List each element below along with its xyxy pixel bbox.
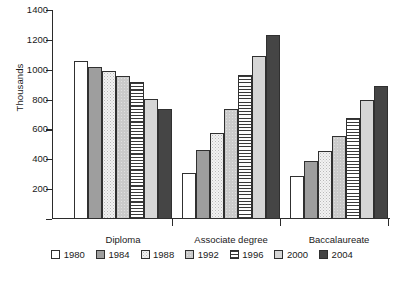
plot-area: 200400600800100012001400 DiplomaAssociat… [52,10,390,219]
bar[interactable] [158,109,172,219]
chart-legend: 1980198419881992199620002004 [0,250,404,260]
legend-label: 1984 [108,250,129,260]
bar[interactable] [290,176,304,219]
bar[interactable] [346,118,360,220]
bar[interactable] [196,150,210,219]
y-axis-tick-label: 600 [32,125,48,135]
bar[interactable] [74,61,88,219]
legend-item-2000[interactable]: 2000 [274,250,308,260]
legend-item-1980[interactable]: 1980 [51,250,85,260]
legend-item-1988[interactable]: 1988 [141,250,175,260]
bar[interactable] [360,100,374,219]
y-axis-tick-label: 800 [32,95,48,105]
y-axis-tick-label: 1200 [27,35,48,45]
legend-label: 1992 [198,250,219,260]
legend-label: 2004 [332,250,353,260]
bar[interactable] [318,151,332,219]
x-axis-category-label: Associate degree [194,234,267,245]
bar-chart: Thousands 200400600800100012001400 Diplo… [0,0,404,281]
bar[interactable] [266,35,280,219]
x-axis-category-label: Diploma [106,234,141,245]
bar[interactable] [116,76,130,219]
legend-swatch-icon [96,250,105,259]
bar-group: Baccalaureate [290,10,388,219]
legend-label: 1988 [153,250,174,260]
legend-label: 2000 [287,250,308,260]
legend-label: 1980 [64,250,85,260]
y-axis-tick-label: 200 [32,184,48,194]
y-axis-tick-label: 400 [32,155,48,165]
bar[interactable] [224,109,238,219]
bar[interactable] [304,161,318,219]
legend-item-1996[interactable]: 1996 [230,250,264,260]
legend-label: 1996 [242,250,263,260]
y-axis-tick-label: 1000 [27,65,48,75]
bar[interactable] [88,67,102,219]
bar[interactable] [252,56,266,219]
bar[interactable] [144,99,158,219]
legend-swatch-icon [141,250,150,259]
x-axis-separator [280,219,281,226]
bar[interactable] [102,71,116,219]
bar-group: Associate degree [182,10,280,219]
x-axis-category-label: Baccalaureate [309,234,370,245]
legend-swatch-icon [185,250,194,259]
bar[interactable] [238,75,252,219]
legend-swatch-icon [51,250,60,259]
y-axis-title: Thousands [14,33,25,143]
bar-group: Diploma [74,10,172,219]
bar[interactable] [210,133,224,219]
bar[interactable] [130,82,144,219]
y-axis-tick [46,219,52,220]
legend-item-1992[interactable]: 1992 [185,250,219,260]
legend-item-2004[interactable]: 2004 [319,250,353,260]
legend-item-1984[interactable]: 1984 [96,250,130,260]
legend-swatch-icon [319,250,328,259]
legend-swatch-icon [230,250,239,259]
x-axis-separator [388,219,389,226]
y-axis-line [52,10,53,219]
bar[interactable] [182,173,196,219]
bar[interactable] [332,136,346,219]
bar[interactable] [374,86,388,219]
x-axis-separator [172,219,173,226]
y-axis-tick-label: 1400 [27,5,48,15]
legend-swatch-icon [274,250,283,259]
